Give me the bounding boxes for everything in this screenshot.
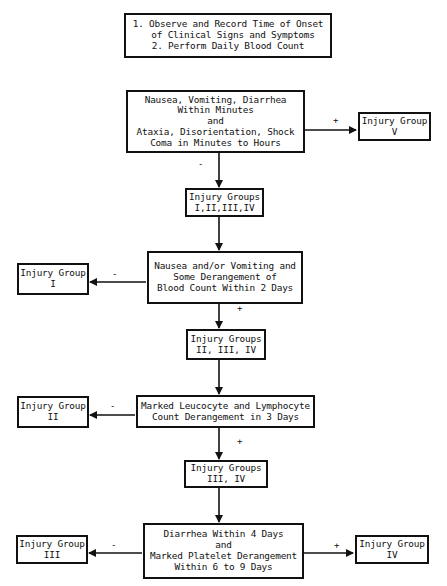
- injury-group-i-box: Injury Group I: [17, 263, 89, 295]
- groups-iii-iv-numerals: III, IV: [207, 474, 245, 485]
- injury-group-v-numeral: V: [392, 127, 397, 138]
- injury-group-iv-title: Injury Group: [359, 539, 424, 550]
- decision-4-line: Within 6 to 9 Days: [175, 562, 273, 573]
- decision-1-line: Coma in Minutes to Hours: [150, 138, 281, 149]
- decision-3-positive-label: +: [237, 437, 242, 446]
- start-instructions-box: 1. Observe and Record Time of Onset of C…: [124, 13, 332, 58]
- injury-group-ii-numeral: II: [48, 412, 59, 423]
- groups-i-iv-numerals: I,II,III,IV: [195, 203, 255, 214]
- injury-groups-ii-iv-box: Injury Groups II, III, IV: [186, 329, 266, 360]
- injury-group-iii-box: Injury Group III: [16, 535, 88, 564]
- decision-3-box: Marked Leucocyte and Lymphocyte Count De…: [136, 395, 315, 428]
- decision-1-positive-label: +: [333, 116, 338, 125]
- groups-ii-iv-numerals: II, III, IV: [196, 345, 256, 356]
- decision-1-box: Nausea, Vomiting, Diarrhea Within Minute…: [126, 90, 305, 153]
- start-line-3: 2. Perform Daily Blood Count: [152, 41, 304, 52]
- injury-group-ii-box: Injury Group II: [17, 396, 89, 428]
- injury-group-i-numeral: I: [50, 279, 55, 290]
- decision-2-line: Blood Count Within 2 Days: [157, 283, 293, 294]
- decision-2-box: Nausea and/or Vomiting and Some Derangem…: [147, 251, 303, 304]
- decision-2-negative-label: -: [112, 270, 117, 279]
- injury-group-iii-title: Injury Group: [19, 539, 84, 550]
- injury-group-v-box: Injury Group V: [358, 112, 431, 141]
- injury-group-iv-numeral: IV: [387, 550, 398, 561]
- decision-3-line: Count Derangement in 3 Days: [152, 412, 299, 423]
- decision-2-positive-label: +: [237, 304, 242, 313]
- decision-4-negative-label: -: [111, 541, 116, 550]
- injury-group-iv-box: Injury Group IV: [355, 535, 429, 564]
- injury-group-iii-numeral: III: [44, 550, 60, 561]
- groups-i-iv-title: Injury Groups: [189, 192, 260, 203]
- decision-3-negative-label: -: [110, 402, 115, 411]
- injury-groups-iii-iv-box: Injury Groups III, IV: [184, 460, 268, 488]
- decision-1-negative-label: -: [198, 160, 203, 169]
- decision-4-box: Diarrhea Within 4 Days and Marked Platel…: [143, 523, 304, 579]
- injury-group-v-title: Injury Group: [362, 116, 427, 127]
- injury-groups-i-iv-box: Injury Groups I,II,III,IV: [185, 188, 264, 217]
- groups-ii-iv-title: Injury Groups: [191, 334, 262, 345]
- decision-3-line: Marked Leucocyte and Lymphocyte: [141, 401, 310, 412]
- decision-4-positive-label: +: [334, 541, 339, 550]
